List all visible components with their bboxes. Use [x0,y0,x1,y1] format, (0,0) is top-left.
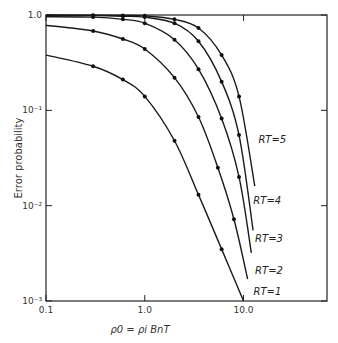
series-line [46,25,248,279]
data-point [232,217,236,221]
series-rt-3: RT=3 [46,15,283,253]
y-tick-label: 10⁻³ [22,296,42,306]
data-point [172,21,176,25]
x-tick-label: 0.1 [39,305,53,315]
data-point [91,13,95,17]
data-point [143,21,147,25]
series-label: RT=1 [254,286,282,297]
data-point [172,38,176,42]
data-point [197,26,201,30]
data-point [91,29,95,33]
data-point [197,115,201,119]
data-point [216,166,220,170]
y-axis-ticks: 1.010⁻¹10⁻²10⁻³ [22,10,327,306]
data-point [197,67,201,71]
data-point [172,76,176,80]
x-axis-title: ρ0 = ρi BnT [110,324,170,335]
data-point [237,175,241,179]
y-tick-label: 1.0 [28,10,43,20]
y-axis-title: Error probability [13,117,24,198]
y-tick-label: 10⁻² [22,201,42,211]
data-point [197,39,201,43]
series-line [46,55,244,301]
data-point [237,133,241,137]
error-probability-chart: 0.11.010.0 1.010⁻¹10⁻²10⁻³ RT=1RT=2RT=3R… [0,0,338,343]
data-point [121,37,125,41]
series-label: RT=3 [255,233,283,244]
plot-border [46,15,327,301]
series-label: RT=2 [255,265,283,276]
series-rt-5: RT=5 [46,13,286,186]
x-tick-label: 1.0 [138,305,153,315]
y-tick-label: 10⁻¹ [22,105,42,115]
data-point [143,94,147,98]
series-line [46,15,253,230]
data-point [121,78,125,82]
data-point [172,17,176,21]
data-point [143,14,147,18]
data-point [237,94,241,98]
series-label: RT=4 [253,195,281,206]
series-label: RT=5 [258,134,286,145]
data-point [121,13,125,17]
data-point [197,193,201,197]
plot-frame [46,15,327,301]
data-point [220,247,224,251]
data-point [220,80,224,84]
series-group: RT=1RT=2RT=3RT=4RT=5 [46,13,286,301]
data-point [220,53,224,57]
data-point [172,139,176,143]
x-tick-label: 10.0 [234,305,254,315]
series-line [46,15,255,186]
data-point [143,47,147,51]
data-point [220,117,224,121]
data-point [91,64,95,68]
